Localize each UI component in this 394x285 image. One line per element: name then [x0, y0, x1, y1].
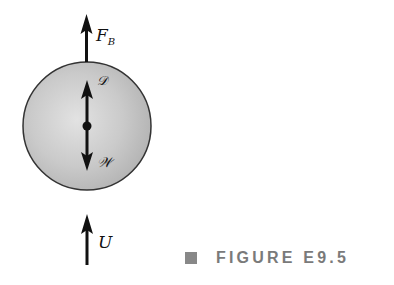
- figure-caption: FIGURE E9.5: [185, 249, 349, 267]
- buoyant-force-arrow: [81, 14, 93, 62]
- caption-text: FIGURE E9.5: [216, 249, 349, 267]
- center-of-mass-dot: [83, 122, 92, 131]
- velocity-arrow: [81, 214, 93, 265]
- figure-canvas: FB 𝒟 𝒲 U FIGURE E9.5: [0, 0, 394, 285]
- buoyant-force-label: FB: [96, 25, 115, 47]
- caption-square-marker-icon: [185, 252, 197, 264]
- drag-force-label: 𝒟: [97, 73, 107, 89]
- weight-label: 𝒲: [97, 155, 112, 171]
- velocity-label: U: [98, 232, 112, 252]
- free-body-diagram: [0, 0, 394, 285]
